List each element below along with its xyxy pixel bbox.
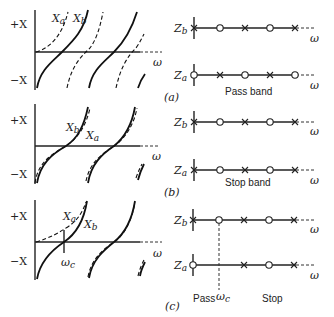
xa-label: Xa [62, 210, 76, 224]
zb-label: Zb [173, 22, 188, 36]
xb-label: Xb [83, 218, 98, 232]
plus-x-label: +X [10, 18, 27, 31]
cutoff-label: ωc [216, 290, 230, 304]
zb-label: Zb [173, 214, 188, 228]
pole-zero-lines-c: Zb ω Za ω ωc Pass Stop (c) [165, 209, 319, 313]
omega-label: ω [310, 269, 319, 282]
zero-icon [267, 119, 273, 125]
za-label: Za [173, 259, 187, 273]
plus-x-label: +X [10, 114, 27, 127]
xa-label: Xa [51, 12, 65, 26]
za-label: Za [173, 69, 187, 83]
zero-icon [242, 72, 248, 78]
zero-icon [217, 25, 223, 31]
minus-x-label: −X [10, 255, 27, 268]
band-label: Pass band [225, 86, 272, 97]
xb-label: Xb [72, 12, 87, 26]
omega-label: ω [310, 223, 319, 236]
omega-label: ω [310, 174, 319, 187]
omega-label: ω [153, 247, 162, 260]
xa-curve [36, 228, 66, 242]
minus-x-label: −X [10, 168, 27, 181]
zero-icon [292, 72, 298, 78]
panel-caption: (c) [165, 300, 180, 313]
cutoff-label: ωc [61, 256, 75, 270]
plus-x-label: +X [10, 210, 27, 223]
pole-zero-lines-a: Zb ω Za ω Pass band (a) [164, 17, 319, 104]
xb-curve [138, 164, 144, 180]
panel-caption: (a) [164, 91, 179, 104]
pole-zero-lines-b: Zb ω Za ω Stop band (b) [164, 111, 319, 199]
zero-icon [217, 167, 223, 173]
panel-b: +X −X ω Xb Xa Zb ω Za [10, 104, 319, 199]
xa-curve [86, 108, 137, 181]
minus-x-label: −X [10, 74, 27, 87]
xb-label: Xb [65, 121, 80, 135]
xb-curve [88, 107, 135, 183]
filter-reactance-diagram: +X −X ω Xa Xb Zb ω Za [0, 0, 334, 317]
zero-icon [266, 217, 272, 223]
zero-icon [217, 119, 223, 125]
zero-icon [191, 72, 197, 78]
stop-label: Stop [262, 293, 283, 304]
zero-icon [266, 262, 272, 268]
panel-c: +X −X ω Xa Xb ωc Zb [10, 200, 319, 313]
omega-label: ω [153, 56, 162, 69]
panel-caption: (b) [164, 186, 180, 199]
za-label: Za [173, 164, 187, 178]
band-label: Stop band [225, 177, 271, 188]
xb-curve [89, 201, 135, 278]
reactance-plot-c: +X −X ω Xa Xb ωc [10, 200, 162, 280]
xa-curve [116, 34, 144, 88]
xb-curve [37, 107, 88, 183]
omega-label: ω [310, 125, 319, 138]
omega-label: ω [310, 79, 319, 92]
zb-label: Zb [173, 116, 188, 130]
zero-icon [216, 217, 222, 223]
zero-icon [267, 167, 273, 173]
zero-icon [267, 25, 273, 31]
reactance-plot-a: +X −X ω Xa Xb [10, 10, 162, 90]
panel-a: +X −X ω Xa Xb Zb ω Za [10, 10, 319, 104]
xa-curve [88, 202, 135, 277]
xb-curve [138, 74, 145, 88]
omega-label: ω [152, 150, 161, 163]
xb-curve [140, 262, 145, 276]
pass-label: Pass [193, 293, 215, 304]
xb-curve [89, 12, 137, 88]
xa-label: Xa [85, 129, 99, 143]
omega-label: ω [310, 32, 319, 45]
zero-icon [190, 262, 196, 268]
reactance-plot-b: +X −X ω Xb Xa [10, 104, 161, 184]
